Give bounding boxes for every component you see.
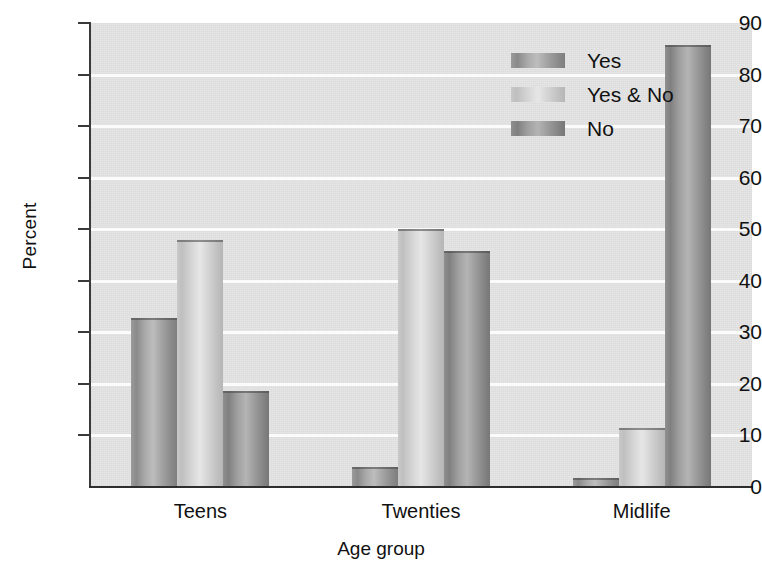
y-axis-title: Percent bbox=[19, 176, 41, 296]
legend-item-no[interactable]: No bbox=[511, 115, 711, 142]
legend-item-yes-and-no[interactable]: Yes & No bbox=[511, 81, 711, 108]
bar-twenties-yes-no[interactable] bbox=[398, 229, 444, 487]
legend-swatch-yes-and-no bbox=[511, 87, 565, 102]
bar-chart-figure: Percent Yes Yes & No No 0102030405060708… bbox=[0, 0, 762, 573]
y-axis-tick-label: 20 bbox=[690, 373, 762, 394]
y-axis-tick bbox=[78, 383, 89, 385]
bar-twenties-no[interactable] bbox=[444, 251, 490, 487]
legend-item-yes[interactable]: Yes bbox=[511, 47, 711, 74]
y-axis-line bbox=[89, 22, 91, 488]
bar-top-edge bbox=[352, 467, 398, 469]
y-axis-tick-label: 10 bbox=[690, 424, 762, 445]
bar-teens-no[interactable] bbox=[223, 391, 269, 487]
bar-top-edge bbox=[398, 229, 444, 231]
y-axis-tick-label: 50 bbox=[690, 218, 762, 239]
x-axis-tick-label-midlife: Midlife bbox=[613, 500, 671, 523]
y-axis-tick-label: 0 bbox=[690, 476, 762, 497]
bar-top-edge bbox=[444, 251, 490, 253]
bar-twenties-yes[interactable] bbox=[352, 467, 398, 487]
x-axis-tick-label-twenties: Twenties bbox=[382, 500, 461, 523]
bar-top-edge bbox=[223, 391, 269, 393]
y-axis-tick bbox=[78, 22, 89, 24]
bar-top-edge bbox=[619, 428, 665, 430]
x-axis-line bbox=[89, 486, 753, 488]
y-axis-tick bbox=[78, 331, 89, 333]
plot-area: Yes Yes & No No bbox=[90, 23, 752, 487]
y-axis-tick-label: 60 bbox=[690, 167, 762, 188]
bar-top-edge bbox=[573, 478, 619, 480]
x-axis-title: Age group bbox=[0, 538, 762, 560]
y-axis-tick bbox=[78, 74, 89, 76]
legend: Yes Yes & No No bbox=[511, 47, 711, 149]
y-axis-tick bbox=[78, 434, 89, 436]
y-axis-tick-label: 80 bbox=[690, 64, 762, 85]
y-axis-tick-label: 30 bbox=[690, 321, 762, 342]
bar-midlife-yes-no[interactable] bbox=[619, 428, 665, 487]
bar-teens-yes[interactable] bbox=[131, 318, 177, 487]
x-axis-tick-label-teens: Teens bbox=[174, 500, 227, 523]
y-axis-tick-label: 90 bbox=[690, 12, 762, 33]
legend-swatch-no bbox=[511, 121, 565, 136]
y-axis-tick bbox=[78, 125, 89, 127]
gridline bbox=[90, 177, 752, 180]
y-axis-tick bbox=[78, 228, 89, 230]
legend-label-yes-and-no: Yes & No bbox=[587, 84, 674, 105]
bar-teens-yes-no[interactable] bbox=[177, 240, 223, 487]
bar-top-edge bbox=[131, 318, 177, 320]
legend-label-yes: Yes bbox=[587, 50, 621, 71]
legend-swatch-yes bbox=[511, 53, 565, 68]
y-axis-tick-label: 70 bbox=[690, 115, 762, 136]
y-axis-tick bbox=[78, 177, 89, 179]
bar-top-edge bbox=[177, 240, 223, 242]
y-axis-tick-label: 40 bbox=[690, 270, 762, 291]
y-axis-tick bbox=[78, 280, 89, 282]
legend-label-no: No bbox=[587, 118, 614, 139]
